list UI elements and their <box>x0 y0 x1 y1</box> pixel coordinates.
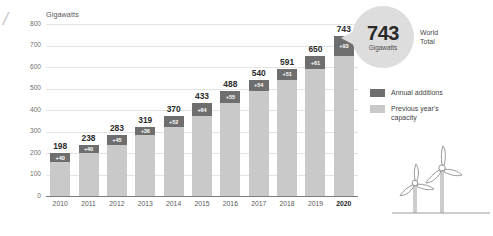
y-tick-label: 500 <box>30 84 41 91</box>
legend-label: Annual additions <box>391 88 443 97</box>
callout-caption-line1: World <box>420 28 438 37</box>
bar-addition-label: +61 <box>311 60 320 66</box>
bar-segment-previous-capacity <box>164 127 184 196</box>
x-tick-label-2015: 2015 <box>194 200 209 207</box>
bar-segment-annual-additions: +45 <box>107 135 127 145</box>
x-tick-label-2012: 2012 <box>109 200 124 207</box>
plot-area: 0100200300400500600700800 198+402010238+… <box>46 24 358 196</box>
x-tick-label-2010: 2010 <box>53 200 68 207</box>
bar-total-label: 198 <box>53 141 67 151</box>
x-tick-label-2011: 2011 <box>81 200 96 207</box>
bar-segment-annual-additions: +36 <box>135 127 155 135</box>
bar-total-label: 433 <box>195 91 209 101</box>
x-tick-label-2014: 2014 <box>166 200 181 207</box>
x-tick-label-2020: 2020 <box>336 200 351 207</box>
legend-label: Previous year's capacity <box>391 104 439 122</box>
bar-addition-label: +40 <box>56 155 65 161</box>
bar-addition-label: +52 <box>169 119 178 125</box>
bar-2010[interactable]: 198+402010 <box>50 153 70 196</box>
x-tick-label-2019: 2019 <box>308 200 323 207</box>
bar-segment-annual-additions: +61 <box>305 56 325 69</box>
bar-segment-previous-capacity <box>135 135 155 196</box>
bar-total-label: 650 <box>308 44 322 54</box>
bar-segment-annual-additions: +55 <box>220 91 240 103</box>
legend-item-1[interactable]: Annual additions <box>370 88 443 97</box>
bar-2015[interactable]: 433+642015 <box>192 103 212 196</box>
bar-addition-label: +40 <box>84 146 93 152</box>
bar-addition-label: +55 <box>226 94 235 100</box>
y-tick-label: 400 <box>30 106 41 113</box>
legend-item-2[interactable]: Previous year's capacity <box>370 104 443 122</box>
corner-slash-mark: / <box>3 8 17 30</box>
world-total-callout: 743 Gigawatts <box>352 6 414 68</box>
y-tick-label: 200 <box>30 149 41 156</box>
x-tick-label-2016: 2016 <box>223 200 238 207</box>
bar-segment-annual-additions: +40 <box>50 153 70 162</box>
bar-total-label: 238 <box>82 133 96 143</box>
bar-segment-previous-capacity <box>249 91 269 196</box>
callout-value: 743 <box>367 23 399 43</box>
bar-segment-previous-capacity <box>334 56 354 196</box>
bar-segment-previous-capacity <box>277 80 297 196</box>
bar-segment-previous-capacity <box>79 153 99 196</box>
legend-swatch <box>370 105 385 113</box>
y-tick-label: 100 <box>30 170 41 177</box>
bar-group: 198+402010238+402011283+452012319+362013… <box>46 24 358 196</box>
bar-addition-label: +64 <box>197 107 206 113</box>
callout-unit: Gigawatts <box>369 44 397 51</box>
bar-total-label: 283 <box>110 123 124 133</box>
legend: Annual additionsPrevious year's capacity <box>370 88 443 129</box>
legend-swatch <box>370 89 385 97</box>
bar-segment-annual-additions: +64 <box>192 103 212 117</box>
bar-2016[interactable]: 488+552016 <box>220 91 240 196</box>
y-tick-label: 0 <box>37 192 41 199</box>
bar-2019[interactable]: 650+612019 <box>305 56 325 196</box>
bar-segment-previous-capacity <box>220 103 240 196</box>
bar-segment-annual-additions: +54 <box>249 80 269 91</box>
x-tick-label-2017: 2017 <box>251 200 266 207</box>
bar-total-label: 370 <box>167 104 181 114</box>
bar-segment-previous-capacity <box>192 116 212 196</box>
gridline-rule <box>46 196 358 197</box>
bar-total-label: 591 <box>280 57 294 67</box>
bar-total-label: 319 <box>138 115 152 125</box>
y-tick-label: 600 <box>30 63 41 70</box>
x-tick-label-2018: 2018 <box>280 200 295 207</box>
bar-2013[interactable]: 319+362013 <box>135 127 155 196</box>
wind-turbine-illustration <box>392 143 490 223</box>
bar-2014[interactable]: 370+522014 <box>164 116 184 196</box>
callout-caption-line2: Total <box>420 37 438 46</box>
bar-total-label: 540 <box>252 68 266 78</box>
bar-2012[interactable]: 283+452012 <box>107 135 127 196</box>
bar-segment-annual-additions: +51 <box>277 69 297 80</box>
bar-addition-label: +51 <box>282 71 291 77</box>
bar-segment-previous-capacity <box>107 145 127 196</box>
x-tick-label-2013: 2013 <box>138 200 153 207</box>
y-tick-label: 700 <box>30 41 41 48</box>
chart-page: / Gigawatts 0100200300400500600700800 19… <box>0 0 493 236</box>
bar-segment-annual-additions: +40 <box>79 145 99 154</box>
bar-addition-label: +45 <box>112 137 121 143</box>
bar-segment-previous-capacity <box>305 69 325 196</box>
callout-caption: World Total <box>420 28 438 46</box>
y-tick-label: 300 <box>30 127 41 134</box>
bar-2018[interactable]: 591+512018 <box>277 69 297 196</box>
bar-total-label: 488 <box>223 79 237 89</box>
y-axis-title: Gigawatts <box>46 10 79 19</box>
bar-2017[interactable]: 540+542017 <box>249 80 269 196</box>
bar-2020[interactable]: 743+932020 <box>334 36 354 196</box>
bar-addition-label: +36 <box>141 128 150 134</box>
bar-addition-label: +54 <box>254 82 263 88</box>
y-tick-label: 800 <box>30 20 41 27</box>
bar-segment-annual-additions: +52 <box>164 116 184 127</box>
bar-segment-previous-capacity <box>50 162 70 196</box>
bar-2011[interactable]: 238+402011 <box>79 145 99 196</box>
